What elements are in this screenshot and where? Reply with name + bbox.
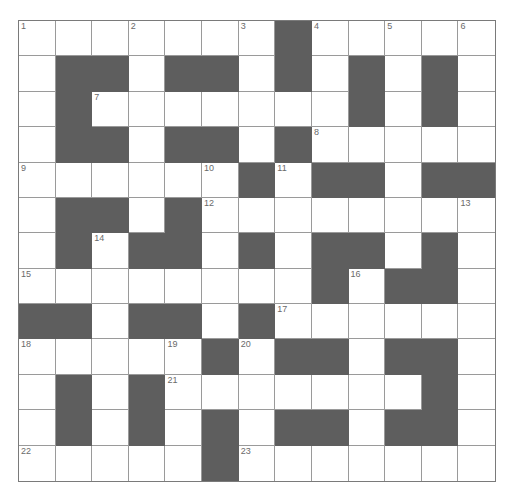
letter-square[interactable] (92, 339, 129, 374)
letter-square[interactable] (19, 233, 56, 268)
letter-square[interactable]: 22 (19, 446, 56, 481)
letter-square[interactable] (129, 446, 166, 481)
letter-square[interactable] (422, 127, 459, 162)
letter-square[interactable] (349, 339, 386, 374)
letter-square[interactable] (275, 233, 312, 268)
letter-square[interactable]: 3 (239, 21, 276, 56)
letter-square[interactable] (349, 198, 386, 233)
letter-square[interactable] (312, 375, 349, 410)
letter-square[interactable] (129, 92, 166, 127)
letter-square[interactable]: 12 (202, 198, 239, 233)
letter-square[interactable] (92, 375, 129, 410)
letter-square[interactable] (129, 163, 166, 198)
letter-square[interactable]: 16 (349, 269, 386, 304)
letter-square[interactable] (19, 56, 56, 91)
letter-square[interactable] (129, 339, 166, 374)
letter-square[interactable] (165, 92, 202, 127)
letter-square[interactable] (202, 233, 239, 268)
letter-square[interactable] (202, 304, 239, 339)
letter-square[interactable]: 11 (275, 163, 312, 198)
letter-square[interactable]: 17 (275, 304, 312, 339)
letter-square[interactable] (239, 127, 276, 162)
letter-square[interactable] (385, 163, 422, 198)
letter-square[interactable]: 19 (165, 339, 202, 374)
letter-square[interactable] (385, 56, 422, 91)
letter-square[interactable] (92, 269, 129, 304)
letter-square[interactable] (92, 410, 129, 445)
letter-square[interactable] (458, 375, 495, 410)
letter-square[interactable]: 18 (19, 339, 56, 374)
letter-square[interactable] (239, 198, 276, 233)
letter-square[interactable] (275, 446, 312, 481)
letter-square[interactable] (312, 92, 349, 127)
letter-square[interactable] (349, 410, 386, 445)
letter-square[interactable] (349, 446, 386, 481)
letter-square[interactable]: 14 (92, 233, 129, 268)
letter-square[interactable] (56, 446, 93, 481)
letter-square[interactable] (56, 21, 93, 56)
letter-square[interactable]: 15 (19, 269, 56, 304)
letter-square[interactable]: 10 (202, 163, 239, 198)
letter-square[interactable] (385, 127, 422, 162)
letter-square[interactable] (19, 92, 56, 127)
letter-square[interactable] (385, 233, 422, 268)
letter-square[interactable] (129, 269, 166, 304)
letter-square[interactable] (422, 446, 459, 481)
letter-square[interactable]: 20 (239, 339, 276, 374)
letter-square[interactable] (458, 410, 495, 445)
letter-square[interactable] (19, 375, 56, 410)
letter-square[interactable] (385, 446, 422, 481)
letter-square[interactable]: 4 (312, 21, 349, 56)
letter-square[interactable] (202, 375, 239, 410)
letter-square[interactable]: 1 (19, 21, 56, 56)
letter-square[interactable] (275, 269, 312, 304)
letter-square[interactable] (165, 269, 202, 304)
letter-square[interactable] (92, 163, 129, 198)
letter-square[interactable] (312, 198, 349, 233)
letter-square[interactable] (92, 21, 129, 56)
letter-square[interactable] (458, 92, 495, 127)
letter-square[interactable] (312, 446, 349, 481)
letter-square[interactable]: 21 (165, 375, 202, 410)
letter-square[interactable] (422, 198, 459, 233)
letter-square[interactable] (385, 198, 422, 233)
letter-square[interactable] (202, 21, 239, 56)
letter-square[interactable] (129, 56, 166, 91)
letter-square[interactable] (239, 410, 276, 445)
letter-square[interactable] (56, 163, 93, 198)
letter-square[interactable] (458, 56, 495, 91)
letter-square[interactable] (349, 375, 386, 410)
letter-square[interactable] (239, 56, 276, 91)
letter-square[interactable] (422, 304, 459, 339)
letter-square[interactable]: 6 (458, 21, 495, 56)
letter-square[interactable] (239, 375, 276, 410)
letter-square[interactable] (349, 127, 386, 162)
letter-square[interactable] (239, 269, 276, 304)
letter-square[interactable]: 9 (19, 163, 56, 198)
letter-square[interactable]: 13 (458, 198, 495, 233)
letter-square[interactable] (239, 92, 276, 127)
letter-square[interactable] (275, 198, 312, 233)
letter-square[interactable] (19, 127, 56, 162)
letter-square[interactable] (165, 446, 202, 481)
letter-square[interactable] (19, 410, 56, 445)
letter-square[interactable] (385, 92, 422, 127)
letter-square[interactable] (165, 410, 202, 445)
letter-square[interactable] (56, 269, 93, 304)
letter-square[interactable] (92, 304, 129, 339)
letter-square[interactable] (129, 198, 166, 233)
letter-square[interactable] (312, 304, 349, 339)
letter-square[interactable] (92, 446, 129, 481)
letter-square[interactable] (275, 92, 312, 127)
letter-square[interactable] (458, 269, 495, 304)
letter-square[interactable] (458, 127, 495, 162)
letter-square[interactable] (422, 21, 459, 56)
letter-square[interactable]: 7 (92, 92, 129, 127)
letter-square[interactable] (275, 375, 312, 410)
letter-square[interactable] (458, 233, 495, 268)
letter-square[interactable] (458, 304, 495, 339)
letter-square[interactable] (385, 304, 422, 339)
letter-square[interactable] (349, 304, 386, 339)
letter-square[interactable] (385, 375, 422, 410)
letter-square[interactable] (165, 21, 202, 56)
